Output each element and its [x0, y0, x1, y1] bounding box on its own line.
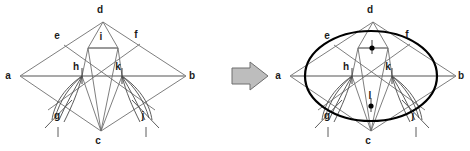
diagram-canvas: a b d c e f i h k g j [0, 0, 470, 151]
label-l-right: l [369, 90, 372, 101]
label-d-right: d [367, 4, 373, 15]
label-j-right: j [411, 110, 415, 121]
label-e: e [54, 30, 60, 41]
focus-dot-lower [368, 103, 373, 108]
label-g: g [54, 110, 60, 121]
label-b-right: b [458, 70, 464, 81]
label-i: i [100, 31, 103, 42]
label-g-right: g [324, 110, 330, 121]
label-b: b [189, 70, 195, 81]
label-e-right: e [324, 30, 330, 41]
label-d: d [97, 4, 103, 15]
label-a-right: a [275, 70, 281, 81]
label-k-right: k [385, 61, 391, 72]
label-k: k [115, 61, 121, 72]
label-j: j [141, 110, 145, 121]
focus-dot-upper [369, 45, 374, 50]
geometry-diagram: a b d c e f i h k g j [0, 0, 470, 151]
label-h-right: h [343, 61, 349, 72]
label-h: h [73, 61, 79, 72]
label-a: a [5, 70, 11, 81]
label-c: c [95, 135, 101, 146]
label-c-right: c [365, 135, 371, 146]
